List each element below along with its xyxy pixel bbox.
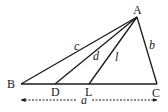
vertex-label-b: B bbox=[7, 77, 15, 91]
vertex-label-a: A bbox=[133, 3, 142, 17]
dimension-label-a: a bbox=[81, 93, 87, 107]
side-label-d: d bbox=[93, 49, 100, 63]
side-label-l: l bbox=[115, 50, 119, 64]
triangle-diagram: A B C D L c d l b a bbox=[0, 0, 168, 112]
vertex-label-c: C bbox=[152, 86, 160, 100]
side-label-b: b bbox=[149, 38, 155, 52]
vertex-label-d: D bbox=[51, 85, 60, 99]
side-label-c: c bbox=[74, 39, 80, 53]
